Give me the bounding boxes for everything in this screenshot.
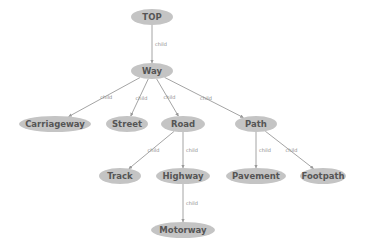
node-track: Track: [99, 168, 141, 184]
node-label: Pavement: [232, 171, 280, 181]
edge-label: child: [285, 147, 297, 153]
edge-label: child: [136, 95, 148, 101]
node-motorway: Motorway: [151, 222, 215, 238]
edge-label: child: [186, 147, 198, 153]
node-street: Street: [106, 116, 148, 132]
edge-label: child: [200, 95, 212, 101]
nodes-layer: TOPWayCarriagewayStreetRoadPathTrackHigh…: [19, 9, 346, 238]
node-carriageway: Carriageway: [19, 116, 91, 132]
node-label: Street: [112, 119, 142, 129]
node-label: Way: [142, 66, 163, 76]
edge-label: child: [100, 94, 112, 100]
node-label: TOP: [142, 12, 161, 22]
tree-diagram: childchildchildchildchildchildchildchild…: [0, 0, 372, 249]
node-label: Footpath: [301, 171, 344, 181]
node-label: Highway: [162, 171, 203, 181]
node-path: Path: [235, 116, 277, 132]
edge-label: child: [259, 147, 271, 153]
node-highway: Highway: [156, 168, 210, 184]
edge-label: child: [186, 200, 198, 206]
node-label: Motorway: [159, 225, 207, 235]
edge-label: child: [155, 41, 167, 47]
node-label: Carriageway: [25, 119, 85, 129]
node-way: Way: [131, 63, 173, 79]
node-pavement: Pavement: [226, 168, 286, 184]
node-label: Path: [245, 119, 267, 129]
node-footpath: Footpath: [300, 168, 346, 184]
node-label: Track: [107, 171, 133, 181]
diagram-canvas: childchildchildchildchildchildchildchild…: [0, 0, 372, 249]
node-road: Road: [161, 116, 205, 132]
edge-label: child: [164, 94, 176, 100]
edge-label: child: [148, 147, 160, 153]
node-top: TOP: [131, 9, 173, 25]
node-label: Road: [171, 119, 195, 129]
